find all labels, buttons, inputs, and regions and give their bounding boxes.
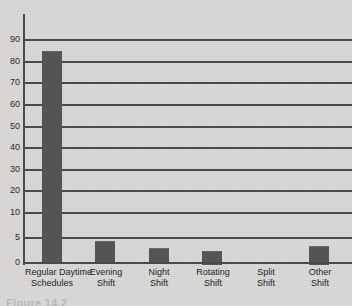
x-axis-category-label: Regular DaytimeSchedules <box>25 267 79 288</box>
y-axis-tick-label: 50 <box>2 122 20 131</box>
x-axis-category-label-line: Rotating <box>186 267 240 278</box>
x-axis-category-label-line: Shift <box>186 278 240 289</box>
gridline <box>23 39 352 41</box>
x-axis-category-label-line: Night <box>132 267 186 278</box>
y-axis-tick-label: 70 <box>2 78 20 87</box>
x-axis-category-label: NightShift <box>132 267 186 288</box>
x-axis-category-label-line: Shift <box>132 278 186 289</box>
gridline <box>23 147 352 149</box>
x-axis-category-label-line: Evening <box>79 267 133 278</box>
gridline <box>23 237 352 239</box>
x-axis-category-label-line: Regular Daytime <box>25 267 79 278</box>
x-axis-category-label-line: Shift <box>79 278 133 289</box>
gridline <box>23 61 352 63</box>
y-axis-tick-label: 90 <box>2 35 20 44</box>
figure-caption: Figure 14.2 <box>6 297 67 306</box>
y-axis-tick-label: 30 <box>2 165 20 174</box>
x-axis-category-label-line: Split <box>239 267 293 278</box>
x-axis-category-label: RotatingShift <box>186 267 240 288</box>
y-axis-line <box>23 14 25 265</box>
x-axis-category-label-line: Schedules <box>25 278 79 289</box>
x-axis-category-label: OtherShift <box>293 267 347 288</box>
bar[interactable] <box>95 241 115 264</box>
gridline <box>23 212 352 214</box>
y-axis-tick-label: 40 <box>2 143 20 152</box>
x-axis-category-label-line: Other <box>293 267 347 278</box>
y-axis-tick-label: 60 <box>2 100 20 109</box>
x-axis-category-label-line: Shift <box>293 278 347 289</box>
x-axis-category-label-line: Shift <box>239 278 293 289</box>
gridline <box>23 169 352 171</box>
x-axis-line <box>23 262 352 264</box>
y-axis-tick-label: 10 <box>2 208 20 217</box>
x-axis-category-label: SplitShift <box>239 267 293 288</box>
bar[interactable] <box>42 51 62 264</box>
y-axis-tick-label: 5 <box>2 233 20 242</box>
x-axis-category-label: EveningShift <box>79 267 133 288</box>
gridline <box>23 104 352 106</box>
y-axis-tick-label: 20 <box>2 186 20 195</box>
gridline <box>23 82 352 84</box>
gridline <box>23 190 352 192</box>
y-axis-tick-label: 0 <box>2 258 20 267</box>
y-axis-tick-label: 80 <box>2 57 20 66</box>
gridline <box>23 126 352 128</box>
